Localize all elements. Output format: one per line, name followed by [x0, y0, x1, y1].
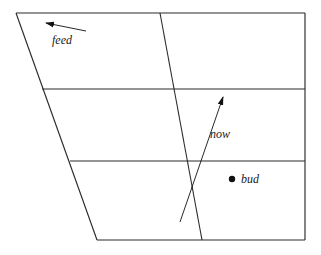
bud-point-label: bud — [241, 172, 260, 186]
feed-arrow-label: feed — [52, 33, 73, 47]
left-slanted-edge — [16, 13, 97, 240]
trapezoid-outline — [16, 13, 305, 240]
internal-lines — [42, 13, 305, 240]
now-arrow-shaft — [180, 97, 223, 222]
bud-point-dot — [229, 176, 235, 182]
bud-point: bud — [229, 172, 260, 186]
now-arrow-label: now — [210, 127, 230, 141]
feed-arrow-shaft — [46, 23, 86, 31]
feed-arrow: feed — [46, 23, 86, 47]
figure-svg: feed now bud — [0, 0, 321, 255]
slanted-crossing-line — [160, 13, 202, 240]
diagram-canvas: feed now bud — [0, 0, 321, 255]
